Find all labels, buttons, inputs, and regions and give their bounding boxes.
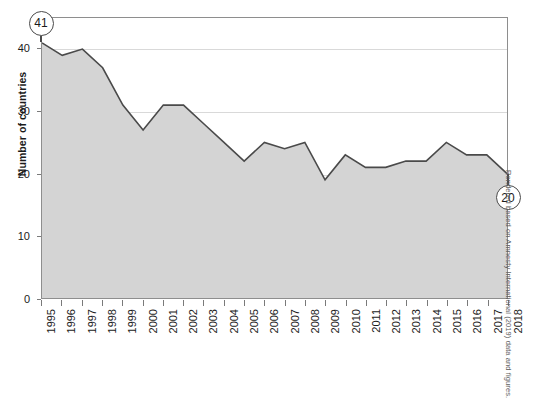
x-tick-label-2008: 2008 — [309, 309, 321, 333]
x-tick-label-2001: 2001 — [167, 309, 179, 333]
x-tick-mark-2009 — [325, 300, 326, 306]
x-tick-label-1996: 1996 — [65, 309, 77, 333]
x-tick-mark-2004 — [224, 300, 225, 306]
x-tick-mark-2000 — [143, 300, 144, 306]
x-tick-label-1995: 1995 — [45, 309, 57, 333]
x-tick-label-2009: 2009 — [329, 309, 341, 333]
x-tick-mark-2013 — [406, 300, 407, 306]
y-tick-label-20: 20 — [0, 168, 30, 180]
y-tick-label-10: 10 — [0, 230, 30, 242]
data-area-series — [42, 18, 507, 298]
x-tick-label-2003: 2003 — [207, 309, 219, 333]
x-tick-label-2011: 2011 — [370, 309, 382, 333]
x-tick-mark-1996 — [61, 300, 62, 306]
x-tick-mark-1999 — [122, 300, 123, 306]
y-tick-label-30: 30 — [0, 105, 30, 117]
x-tick-mark-2005 — [244, 300, 245, 306]
x-tick-mark-2015 — [447, 300, 448, 306]
x-tick-mark-2006 — [264, 300, 265, 306]
x-tick-mark-1998 — [102, 300, 103, 306]
x-tick-mark-2007 — [285, 300, 286, 306]
x-tick-mark-2008 — [305, 300, 306, 306]
x-tick-mark-1997 — [82, 300, 83, 306]
x-tick-label-2000: 2000 — [147, 309, 159, 333]
y-tick-label-0: 0 — [0, 293, 30, 305]
start-value-badge: 41 — [29, 11, 54, 36]
x-tick-mark-2003 — [203, 300, 204, 306]
series-fill — [42, 43, 507, 298]
x-tick-label-1999: 1999 — [126, 309, 138, 333]
x-tick-mark-2016 — [467, 300, 468, 306]
y-tick-label-40: 40 — [0, 42, 30, 54]
x-tick-mark-2002 — [183, 300, 184, 306]
x-tick-mark-1995 — [41, 300, 42, 306]
x-tick-mark-2012 — [386, 300, 387, 306]
x-tick-label-2018: 2018 — [512, 309, 524, 333]
x-tick-label-2013: 2013 — [410, 309, 422, 333]
x-tick-label-2010: 2010 — [350, 309, 362, 333]
x-tick-label-2004: 2004 — [228, 309, 240, 333]
x-tick-label-2014: 2014 — [431, 309, 443, 333]
x-tick-label-2006: 2006 — [268, 309, 280, 333]
x-tick-label-2016: 2016 — [471, 309, 483, 333]
x-tick-mark-2010 — [346, 300, 347, 306]
start-badge-stem — [40, 36, 41, 43]
x-tick-label-2005: 2005 — [248, 309, 260, 333]
x-tick-label-2015: 2015 — [451, 309, 463, 333]
x-tick-label-2007: 2007 — [289, 309, 301, 333]
x-tick-label-1998: 1998 — [106, 309, 118, 333]
x-tick-label-2002: 2002 — [187, 309, 199, 333]
x-tick-mark-2001 — [163, 300, 164, 306]
y-axis-title: Number of countries — [16, 44, 28, 204]
x-tick-label-1997: 1997 — [86, 309, 98, 333]
x-tick-mark-2014 — [427, 300, 428, 306]
x-tick-label-2012: 2012 — [390, 309, 402, 333]
x-tick-label-2017: 2017 — [492, 309, 504, 333]
x-tick-mark-2017 — [488, 300, 489, 306]
attribution-text: Rendered based on Amnesty International … — [504, 170, 513, 398]
plot-area — [41, 17, 508, 299]
x-tick-mark-2011 — [366, 300, 367, 306]
